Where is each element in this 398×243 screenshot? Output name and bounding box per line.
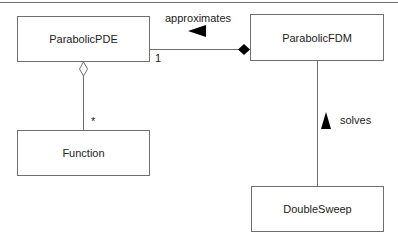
class-name: ParabolicFDM bbox=[282, 32, 352, 44]
class-function: Function bbox=[17, 130, 150, 176]
class-name: DoubleSweep bbox=[283, 203, 352, 215]
composition-diamond-icon bbox=[238, 44, 250, 55]
label-approximates: approximates bbox=[165, 12, 231, 24]
class-name: ParabolicPDE bbox=[49, 33, 117, 45]
multiplicity-one: 1 bbox=[155, 52, 161, 64]
multiplicity-many: * bbox=[91, 115, 95, 127]
class-name: Function bbox=[62, 147, 104, 159]
class-parabolic-pde: ParabolicPDE bbox=[17, 16, 150, 62]
direction-arrow-left-icon bbox=[188, 25, 206, 37]
label-solves: solves bbox=[340, 114, 371, 126]
direction-arrow-up-icon bbox=[321, 112, 331, 129]
class-double-sweep: DoubleSweep bbox=[251, 186, 384, 232]
aggregation-diamond-icon bbox=[80, 62, 88, 76]
class-parabolic-fdm: ParabolicFDM bbox=[250, 14, 384, 61]
